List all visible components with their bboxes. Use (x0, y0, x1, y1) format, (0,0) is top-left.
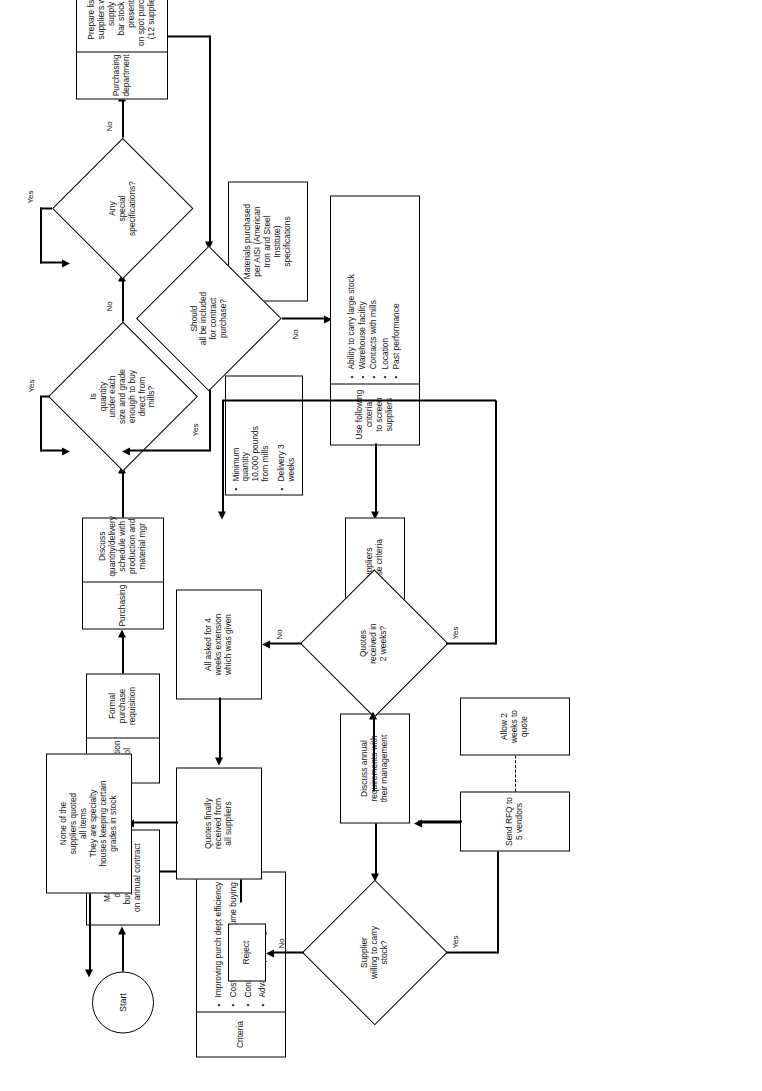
node-contract-purchase-decision: Should all be included for contract purc… (136, 245, 282, 391)
node-start-label: Start (118, 993, 128, 1012)
node-reject: Reject (228, 923, 266, 981)
edge-quotes-yes-v2 (222, 400, 496, 402)
node-start: Start (92, 971, 154, 1033)
node-four-week-extension: All asked for 4 weeks extension which wa… (176, 589, 262, 699)
node-text-line: which was given (224, 613, 234, 675)
screen-bullet: Ability to carry large stock (347, 274, 357, 378)
edge-screen-to-five (375, 443, 377, 513)
edge-qty-yes-v (40, 396, 50, 398)
edge-label-qty-no: No (106, 301, 114, 311)
edge-ext-to-finally (219, 697, 221, 759)
arrowhead (369, 711, 377, 719)
node-text-line: weeks (286, 457, 296, 481)
node-purchasing: Purchasing Discuss quantity/delivery sch… (82, 517, 164, 629)
arrowhead (266, 949, 274, 957)
node-reject-label: Reject (242, 940, 252, 964)
node-purchasing-department: Purchasing department Prepare list of su… (76, 0, 168, 99)
node-text-line: material mgr (138, 516, 148, 577)
edge-willing-no-v (272, 952, 304, 954)
node-text-line: grades in stock (109, 780, 119, 866)
arrowhead (85, 969, 93, 977)
node-screen-criteria: Use following criteria to screen supplie… (330, 195, 420, 445)
node-allow-two-weeks: Allow 2 weeks to quote (460, 697, 570, 755)
edge-label-quotes-no: No (276, 629, 284, 639)
edge-qty-no-h (122, 279, 124, 321)
node-purchasing-department-body: Prepare list of suppliers who supply bar… (77, 0, 167, 51)
arrowhead (62, 259, 70, 267)
arrowhead (122, 447, 130, 455)
edge-rfq-to-quotesdec-h (373, 715, 375, 791)
node-screen-criteria-body: Ability to carry large stock Warehouse f… (331, 196, 419, 383)
node-criteria-header: Criteria (197, 1011, 285, 1056)
node-text-line: all suppliers (224, 798, 234, 849)
edge-prodctl-to-purchasing (122, 635, 124, 673)
node-quotes-finally-received: Quotes finally received from all supplie… (176, 767, 262, 879)
edge-label-spec-yes: Yes (27, 190, 35, 203)
arrowhead (118, 629, 126, 637)
edge-contract-yes-v (128, 450, 210, 452)
node-text-line: purchase? (219, 291, 229, 345)
flowchart-canvas: Start Criteria Improving purch dept effi… (0, 0, 762, 1091)
edge-purchdept-to-contractdec-v (168, 36, 210, 38)
minqty-bullet: Minimum quantity 10,000 pounds from mill… (232, 380, 271, 490)
screen-bullet: Location (381, 274, 391, 378)
edge-quotes-yes-h (495, 400, 497, 644)
screen-bullet: Warehouse facility (358, 274, 368, 378)
arrowhead (218, 511, 226, 519)
arrowhead (62, 447, 70, 455)
node-text-line: 5 vendors (515, 797, 525, 846)
edge-spec-no-h (122, 99, 124, 137)
edge-quotes-yes-h2 (222, 400, 224, 513)
node-text-line: from mills (260, 445, 270, 481)
edge-spec-yes-h (40, 207, 42, 263)
edge-none-offpage (89, 893, 91, 971)
edge-purchdept-to-contractdec-h (209, 35, 211, 245)
edge-qty-yes-h (40, 396, 42, 451)
edge-contract-no-v (282, 318, 328, 320)
node-text-line: stock? (380, 925, 390, 978)
node-text-line: Allow 2 weeks to (500, 702, 520, 750)
node-text-line: on annual contract (133, 843, 143, 912)
screen-bullet: Contacts with mills (369, 274, 379, 378)
node-text-line: specifications (283, 203, 293, 278)
node-quotes-received-text: Quotes received in 2 weeks? (300, 569, 448, 717)
edge-start-to-mgmt (122, 932, 124, 971)
edge-label-contract-no: No (292, 329, 300, 339)
node-text-line: to screen suppliers (375, 386, 395, 442)
edge-label-willing-yes: Yes (452, 935, 460, 948)
edge-purchasing-to-qtydec (122, 471, 124, 517)
flowchart-page: Start Criteria Improving purch dept effi… (0, 0, 762, 1091)
node-production-control-body: Formal purchase requisition (87, 674, 159, 737)
node-supplier-willing-text: Supplier willing to carry stock? (302, 879, 448, 1025)
node-contract-purchase-text: Should all be included for contract purc… (136, 245, 282, 391)
node-screen-criteria-header: Use following criteria to screen supplie… (331, 383, 419, 444)
node-text-line: specifications? (128, 181, 138, 236)
node-send-rfq: Send RFQ to 5 vendors (460, 791, 570, 851)
node-quotes-received-decision: Quotes received in 2 weeks? (300, 569, 448, 717)
node-text-line: Use following criteria (355, 386, 375, 442)
edge-label-quotes-yes: Yes (452, 626, 460, 639)
node-minimum-quantity: Minimum quantity 10,000 pounds from mill… (225, 375, 303, 495)
node-purchasing-header: Purchasing (83, 581, 163, 628)
node-text-line: quantity (240, 452, 250, 481)
node-text-line: 2 weeks? (379, 623, 389, 664)
edge-spec-yes-v (40, 208, 52, 210)
arrowhead (215, 757, 223, 765)
node-text-line: (12 suppliers) (147, 0, 157, 46)
node-none-quoted-all-items: None of the suppliers quoted all items T… (46, 753, 132, 893)
edge-quotes-yes-v (446, 643, 496, 645)
edge-willing-yes-v (446, 952, 498, 954)
arrowhead (262, 640, 270, 648)
edge-label-spec-no: No (106, 121, 114, 131)
edge-rfq-to-allow-dashed (515, 755, 516, 791)
node-text-line: their management (380, 734, 390, 802)
edge-label-willing-no: No (278, 938, 286, 948)
edge-label-contract-yes: Yes (192, 423, 200, 436)
node-text-line: department (122, 54, 132, 96)
edge-finally-to-none-v (132, 822, 178, 824)
node-text-line: bar stock at present (117, 0, 137, 46)
edge-quotes-no-v (268, 643, 302, 645)
edge-discuss-to-willing (375, 823, 377, 875)
criteria-bullet: Improving purch dept efficiency (214, 881, 224, 1006)
edge-rfq-to-quotes-v (418, 821, 462, 823)
